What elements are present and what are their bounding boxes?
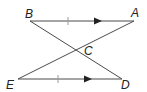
segment-ea	[18, 21, 134, 79]
parallel-arrow-icon-ed	[84, 76, 92, 83]
point-label-c: C	[84, 45, 93, 57]
point-label-a: A	[131, 7, 139, 19]
point-label-e: E	[6, 79, 14, 91]
parallel-arrow-icon-ba	[94, 18, 102, 25]
point-label-b: B	[25, 8, 33, 20]
geometry-diagram: B A C E D	[0, 0, 147, 92]
point-label-d: D	[121, 79, 130, 91]
